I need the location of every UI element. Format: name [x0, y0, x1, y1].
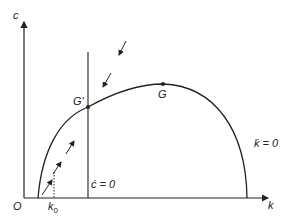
g-point — [161, 82, 165, 86]
arrow-icon — [53, 162, 61, 174]
g-prime-point — [86, 105, 90, 109]
arrow-icon — [119, 41, 126, 55]
k-dot-zero-locus — [38, 84, 247, 198]
origin-label: O — [13, 201, 22, 212]
k0-label: k0 — [48, 201, 58, 215]
g-prime-label: G' — [73, 96, 84, 107]
g-label: G — [158, 89, 167, 100]
c-dot-zero-label: ċ = 0 — [91, 179, 115, 190]
y-axis-label: c — [13, 10, 19, 21]
phase-diagram — [0, 0, 291, 224]
k-dot-zero-label: k̇ = 0 — [254, 138, 278, 149]
arrow-icon — [103, 73, 111, 87]
arrow-icon — [66, 141, 74, 154]
arrow-icon — [42, 180, 52, 195]
x-axis-label: k — [268, 200, 274, 211]
